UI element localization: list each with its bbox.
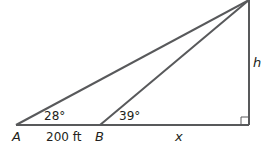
h-label: h xyxy=(253,55,261,70)
right-angle-marker xyxy=(241,117,249,125)
line-from-A xyxy=(16,0,249,125)
line-from-B xyxy=(100,0,249,125)
x-label: x xyxy=(174,129,183,144)
point-B-label: B xyxy=(95,129,104,144)
length-AB-label: 200 ft xyxy=(46,130,82,144)
angle-B-label: 39° xyxy=(119,109,140,123)
triangle-diagram: 28° 39° A 200 ft B x h xyxy=(0,0,268,148)
angle-A-label: 28° xyxy=(44,109,65,123)
point-A-label: A xyxy=(11,129,21,144)
